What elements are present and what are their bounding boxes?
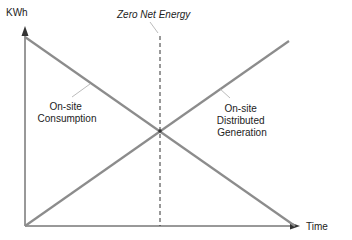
generation-label: On-site Distributed Generation [217,103,268,138]
y-axis-arrow-icon [22,26,29,36]
intersection-point [158,129,162,133]
generation-series: On-site Distributed Generation [25,41,289,226]
x-axis: Time [25,221,328,232]
x-axis-label: Time [306,221,328,232]
generation-leader-line [219,88,230,98]
zero-net-energy-diagram: KWh Time Zero Net Energy On-site Consump… [0,0,352,240]
consumption-leader-line [72,84,90,97]
consumption-label: On-site Consumption [38,101,97,124]
y-axis: KWh [6,7,29,226]
zne-leader-line [150,22,158,33]
zne-label: Zero Net Energy [116,9,191,20]
y-axis-label: KWh [6,7,28,18]
